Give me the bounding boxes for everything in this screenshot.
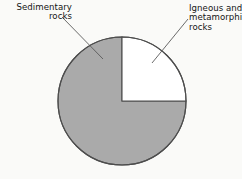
pie-chart-figure: Sedimentary rocks Igneous and metamorphi…: [0, 0, 242, 179]
pie-slice-igneous-metamorphic[interactable]: [122, 37, 186, 101]
slice-label-sedimentary: Sedimentary rocks: [2, 3, 72, 22]
leader-line-igneous-metamorphic: [152, 19, 188, 63]
slice-label-igneous-metamorphic: Igneous and metamorphic rocks: [189, 4, 242, 32]
